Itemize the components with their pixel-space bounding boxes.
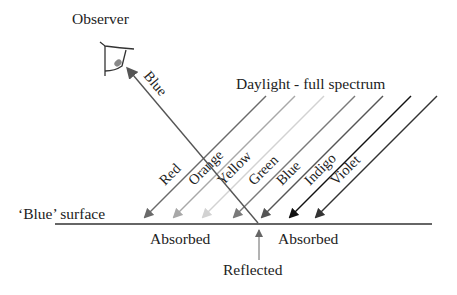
diagram-stage: Daylight - full spectrum Observer ‘Blue’…: [0, 0, 457, 295]
ray-green: [234, 96, 355, 217]
observer-label: Observer: [72, 10, 130, 27]
reflected-blue-ray: [128, 69, 258, 223]
title-daylight: Daylight - full spectrum: [236, 75, 385, 92]
reflected-label: Reflected: [223, 261, 283, 278]
ray-violet: [316, 96, 437, 217]
surface-label: ‘Blue’ surface: [18, 205, 105, 222]
ray-label-red: Red: [156, 160, 184, 188]
absorbed-right-label: Absorbed: [278, 230, 339, 247]
reflected-ray-label: Blue: [141, 68, 171, 99]
absorbed-left-label: Absorbed: [150, 230, 211, 247]
incoming-rays: RedOrangeYellowGreenBlueIndigoViolet: [145, 96, 437, 217]
light-reflection-diagram: Daylight - full spectrum Observer ‘Blue’…: [0, 0, 457, 295]
